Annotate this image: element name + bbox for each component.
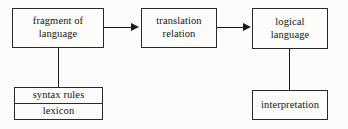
edge-logical-to-interpretation-line (289, 49, 290, 90)
node-fragment-of-language-label: fragment of language (29, 15, 87, 41)
edge-translation-to-logical-arrowhead-icon (243, 23, 251, 31)
node-syntax-rules-lexicon[interactable]: syntax rules lexicon (14, 87, 103, 120)
edge-translation-to-logical-line (217, 27, 246, 28)
node-lexicon-label: lexicon (39, 105, 79, 118)
node-fragment-of-language[interactable]: fragment of language (12, 8, 104, 48)
node-translation-relation[interactable]: translation relation (141, 8, 217, 48)
edge-fragment-to-translation-arrowhead-icon (131, 23, 139, 31)
edge-fragment-to-translation-line (104, 27, 134, 28)
node-translation-relation-label: translation relation (152, 15, 205, 41)
edge-fragment-to-syntax-lexicon-line (58, 48, 59, 87)
diagram-canvas: fragment of language translation relatio… (0, 0, 348, 129)
node-logical-language[interactable]: logical language (252, 8, 328, 49)
node-lexicon-cell[interactable]: lexicon (15, 103, 102, 119)
node-interpretation-label: interpretation (257, 99, 323, 112)
node-syntax-rules-cell[interactable]: syntax rules (15, 88, 102, 103)
node-logical-language-label: logical language (267, 16, 314, 42)
node-interpretation[interactable]: interpretation (252, 90, 328, 120)
node-syntax-rules-label: syntax rules (29, 89, 89, 102)
